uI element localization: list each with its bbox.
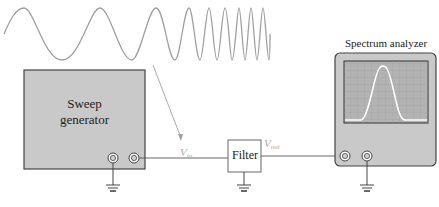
vout-subscript: out (271, 143, 280, 151)
vin-label: Vin (180, 146, 192, 160)
filter-label: Filter (228, 148, 262, 163)
sweep-generator-label: Sweep generator (24, 96, 145, 128)
spectrum-analyzer (335, 53, 436, 166)
vout-symbol: V (264, 137, 271, 149)
ground-icon (237, 172, 251, 191)
generator-output-connector-icon[interactable] (129, 153, 139, 163)
sweep-generator-label-line1: Sweep (24, 96, 145, 112)
sweep-generator-label-line2: generator (24, 112, 145, 128)
vin-pointer-line (153, 65, 181, 138)
vin-symbol: V (180, 146, 187, 158)
vin-subscript: in (187, 152, 192, 160)
analyzer-ground-connector-icon[interactable] (362, 151, 372, 161)
analyzer-input-connector-icon[interactable] (340, 151, 350, 161)
sweep-waveform (4, 8, 270, 60)
vin-arrowhead-icon (178, 134, 183, 141)
spectrum-analyzer-label: Spectrum analyzer (335, 37, 437, 49)
vout-label: Vout (264, 137, 280, 151)
generator-ground-connector-icon[interactable] (108, 153, 118, 163)
